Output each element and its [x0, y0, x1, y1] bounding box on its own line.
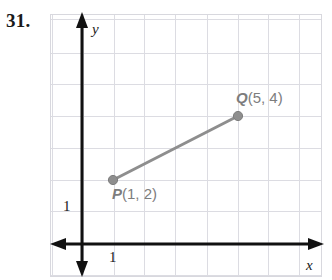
point-p-label: P(1, 2) — [112, 186, 157, 201]
axes-and-plot-layer — [0, 0, 332, 280]
point-p-coords: (1, 2) — [122, 185, 157, 202]
point-p-dot — [108, 175, 117, 184]
point-p-name: P — [112, 185, 122, 202]
y-axis-arrow-up — [76, 12, 88, 28]
point-q-label: Q(5, 4) — [236, 90, 283, 105]
x-axis-label: x — [306, 258, 313, 273]
point-q-name: Q — [236, 89, 248, 106]
geometry-figure: 31. — [0, 0, 332, 280]
segment-pq — [113, 116, 238, 180]
y-axis-label: y — [92, 22, 99, 37]
x-axis-arrow-left — [50, 238, 66, 250]
y-axis-unit-tick-label: 1 — [63, 199, 71, 214]
y-axis-arrow-down — [76, 261, 88, 277]
x-axis-unit-tick-label: 1 — [109, 250, 117, 265]
x-axis-arrow-right — [308, 238, 324, 250]
point-q-dot — [233, 111, 242, 120]
point-q-coords: (5, 4) — [248, 89, 283, 106]
